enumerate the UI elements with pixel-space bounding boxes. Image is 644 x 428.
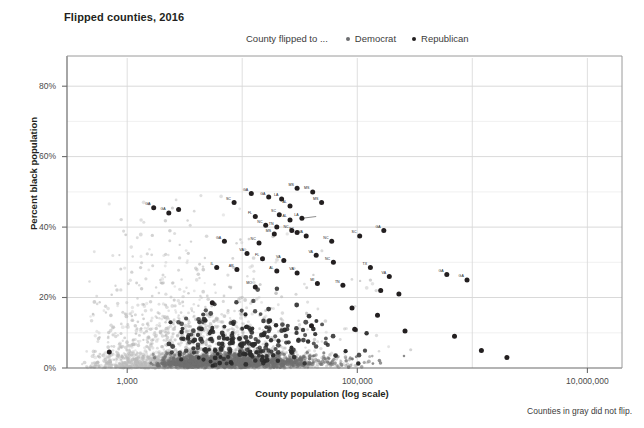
- data-point-republican[interactable]: [310, 189, 315, 194]
- data-point-republican[interactable]: [250, 327, 254, 331]
- data-point-republican[interactable]: [210, 326, 214, 330]
- data-point-republican[interactable]: [179, 321, 184, 326]
- data-point-republican[interactable]: [276, 343, 281, 348]
- data-point-republican[interactable]: [331, 334, 336, 339]
- data-point-republican[interactable]: [288, 204, 293, 209]
- data-point-republican[interactable]: [239, 343, 244, 348]
- data-point-republican[interactable]: [364, 331, 368, 335]
- data-point-republican[interactable]: [244, 325, 248, 329]
- data-point-republican[interactable]: [179, 357, 183, 361]
- data-point-republican[interactable]: [314, 253, 319, 258]
- data-point-republican[interactable]: [197, 356, 201, 360]
- data-point-republican[interactable]: [248, 351, 253, 356]
- data-point-republican[interactable]: [243, 312, 247, 316]
- data-point-republican[interactable]: [292, 355, 297, 360]
- data-point-republican[interactable]: [151, 205, 156, 210]
- data-point-republican[interactable]: [284, 334, 289, 339]
- data-point-republican[interactable]: [368, 265, 373, 270]
- data-point-republican[interactable]: [238, 349, 242, 353]
- data-point-republican[interactable]: [331, 260, 336, 265]
- data-point-republican[interactable]: [178, 350, 182, 354]
- data-point-republican[interactable]: [198, 336, 203, 341]
- data-point-republican[interactable]: [306, 339, 311, 344]
- data-point-republican[interactable]: [222, 239, 227, 244]
- data-point-republican[interactable]: [295, 331, 299, 335]
- data-point-republican[interactable]: [275, 286, 280, 291]
- data-point-republican[interactable]: [350, 306, 355, 311]
- data-point-republican[interactable]: [213, 348, 217, 352]
- data-point-republican[interactable]: [208, 311, 213, 316]
- data-point-republican[interactable]: [329, 239, 334, 244]
- data-point-republican[interactable]: [245, 251, 250, 256]
- data-point-republican[interactable]: [186, 336, 191, 341]
- data-point-republican[interactable]: [261, 319, 266, 324]
- data-point-republican[interactable]: [243, 362, 248, 367]
- data-point-republican[interactable]: [301, 338, 306, 343]
- data-point-republican[interactable]: [176, 207, 181, 212]
- data-point-republican[interactable]: [237, 336, 241, 340]
- data-point-republican[interactable]: [378, 288, 383, 293]
- data-point-republican[interactable]: [258, 345, 262, 349]
- data-point-republican[interactable]: [320, 322, 324, 326]
- data-point-republican[interactable]: [319, 200, 324, 205]
- data-point-republican[interactable]: [243, 335, 248, 340]
- data-point-republican[interactable]: [260, 256, 265, 261]
- data-point-republican[interactable]: [179, 336, 183, 340]
- data-point-republican[interactable]: [201, 357, 205, 361]
- data-point-republican[interactable]: [249, 191, 254, 196]
- data-point-republican[interactable]: [234, 267, 239, 272]
- data-point-republican[interactable]: [267, 329, 271, 333]
- data-point-republican[interactable]: [277, 339, 281, 343]
- data-point-republican[interactable]: [191, 346, 195, 350]
- data-point-republican[interactable]: [286, 340, 290, 344]
- data-point-republican[interactable]: [313, 332, 317, 336]
- data-point-republican[interactable]: [256, 339, 261, 344]
- data-point-republican[interactable]: [232, 200, 237, 205]
- data-point-republican[interactable]: [276, 350, 281, 355]
- data-point-republican[interactable]: [387, 274, 392, 279]
- data-point-republican[interactable]: [166, 211, 171, 216]
- data-point-republican[interactable]: [465, 277, 470, 282]
- data-point-republican[interactable]: [309, 323, 314, 328]
- data-point-republican[interactable]: [263, 359, 267, 363]
- data-point-republican[interactable]: [170, 350, 174, 354]
- data-point-republican[interactable]: [279, 328, 284, 333]
- data-point-republican[interactable]: [273, 334, 277, 338]
- data-point-republican[interactable]: [281, 258, 286, 263]
- data-point-republican[interactable]: [265, 335, 269, 339]
- data-point-republican[interactable]: [251, 343, 256, 348]
- data-point-republican[interactable]: [357, 233, 362, 238]
- data-point-republican[interactable]: [295, 270, 300, 275]
- data-point-republican[interactable]: [301, 328, 305, 332]
- data-point-republican[interactable]: [315, 281, 320, 286]
- data-point-republican[interactable]: [264, 354, 268, 358]
- data-point-republican[interactable]: [363, 349, 367, 353]
- data-point-republican[interactable]: [217, 361, 222, 366]
- data-point-republican[interactable]: [294, 326, 299, 331]
- data-point-republican[interactable]: [479, 348, 484, 353]
- data-point-republican[interactable]: [196, 333, 200, 337]
- data-point-republican[interactable]: [210, 300, 215, 305]
- data-point-republican[interactable]: [259, 312, 263, 316]
- data-point-republican[interactable]: [253, 309, 257, 313]
- data-point-republican[interactable]: [253, 358, 258, 363]
- data-point-republican[interactable]: [208, 331, 212, 335]
- data-point-republican[interactable]: [274, 225, 279, 230]
- data-point-republican[interactable]: [504, 355, 509, 360]
- data-point-republican[interactable]: [289, 350, 294, 355]
- data-point-republican[interactable]: [303, 320, 308, 325]
- data-point-republican[interactable]: [253, 214, 258, 219]
- data-point-republican[interactable]: [226, 355, 230, 359]
- data-point-republican[interactable]: [213, 355, 218, 360]
- data-point-republican[interactable]: [303, 333, 307, 337]
- data-point-republican[interactable]: [184, 316, 188, 320]
- data-point-republican[interactable]: [204, 347, 208, 351]
- data-point-republican[interactable]: [230, 333, 235, 338]
- data-point-republican[interactable]: [452, 334, 457, 339]
- data-point-republican[interactable]: [302, 361, 306, 365]
- data-point-republican[interactable]: [180, 330, 184, 334]
- data-point-republican[interactable]: [264, 343, 268, 347]
- data-point-republican[interactable]: [255, 350, 260, 355]
- data-point-republican[interactable]: [357, 353, 362, 358]
- data-point-republican[interactable]: [192, 350, 196, 354]
